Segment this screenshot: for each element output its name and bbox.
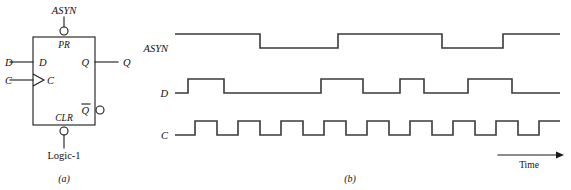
q-pin-label: Q: [81, 57, 89, 68]
figure-container: ASYN PR D D C C Q Q Q CLR Logic-1 (a): [0, 0, 571, 190]
qbar-bubble-icon: [96, 106, 104, 114]
qbar-pin-label-group: Q: [81, 104, 90, 116]
time-arrow-head-icon: [556, 152, 564, 159]
waveform-asyn: [175, 34, 560, 48]
asyn-input-label: ASYN: [51, 5, 78, 16]
clear-pin-label: CLR: [55, 113, 73, 123]
waveform-c: [175, 121, 560, 135]
q-output-label: Q: [123, 57, 131, 68]
qbar-pin-label: Q: [81, 105, 89, 116]
panel-b-timing-diagram: [175, 34, 564, 159]
waveform-label-c: C: [161, 130, 169, 141]
clock-edge-triangle-icon: [33, 74, 44, 86]
time-axis-label: Time: [519, 160, 539, 170]
waveform-d: [175, 79, 560, 93]
c-input-label: C: [5, 75, 13, 86]
c-pin-label: C: [47, 75, 55, 86]
panel-a-flipflop-symbol: [10, 17, 118, 148]
clear-bubble-icon: [60, 127, 68, 135]
waveform-label-asyn: ASYN: [142, 43, 169, 54]
panel-a-caption: (a): [58, 173, 70, 185]
logic-one-label: Logic-1: [47, 150, 80, 161]
figure-svg: ASYN PR D D C C Q Q Q CLR Logic-1 (a): [0, 0, 571, 190]
d-pin-label: D: [38, 57, 47, 68]
d-input-label: D: [4, 57, 13, 68]
preset-bubble-icon: [60, 27, 68, 35]
time-axis-arrow: [498, 152, 564, 159]
preset-pin-label: PR: [57, 40, 70, 50]
panel-b-caption: (b): [344, 173, 356, 185]
waveform-label-d: D: [159, 88, 168, 99]
